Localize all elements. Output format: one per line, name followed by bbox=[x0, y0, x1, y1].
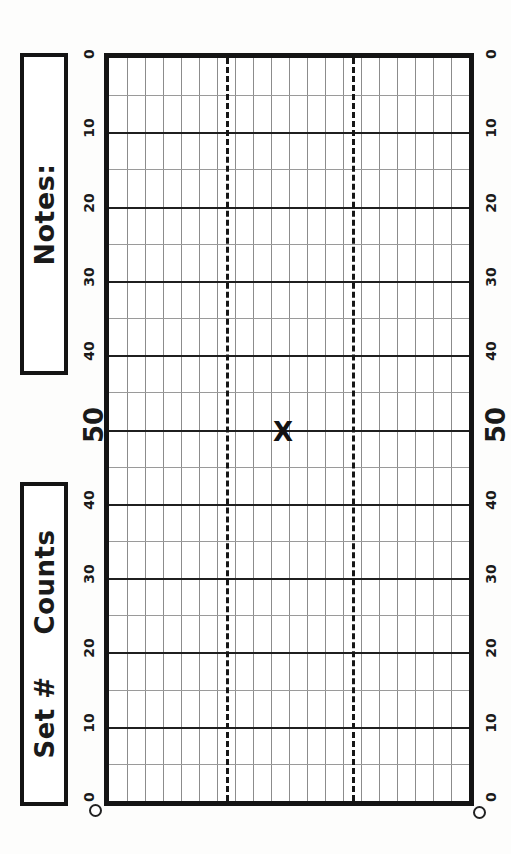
axis-tick-right-10: 0 bbox=[478, 790, 504, 804]
grid-hline bbox=[109, 392, 469, 393]
axis-tick-left-9: 10 bbox=[76, 716, 102, 730]
binder-hole-left bbox=[89, 804, 102, 817]
axis-tick-left-10: 0 bbox=[76, 790, 102, 804]
axis-tick-left-8: 20 bbox=[76, 641, 102, 655]
axis-tick-label: 30 bbox=[82, 267, 96, 286]
axis-tick-label: 0 bbox=[82, 792, 96, 802]
set-number-label: Set # bbox=[31, 676, 57, 758]
grid-hline bbox=[109, 95, 469, 96]
axis-tick-label: 10 bbox=[484, 713, 498, 732]
axis-tick-right-5: 50 bbox=[478, 412, 504, 438]
axis-tick-right-4: 40 bbox=[478, 344, 504, 358]
axis-tick-label: 0 bbox=[82, 49, 96, 59]
axis-tick-right-2: 20 bbox=[478, 196, 504, 210]
grid-hline bbox=[109, 764, 469, 765]
axis-left: 01020304050403020100 bbox=[76, 53, 102, 806]
grid-hline bbox=[109, 578, 469, 580]
axis-tick-label: 20 bbox=[484, 193, 498, 212]
grid-hline bbox=[109, 504, 469, 506]
axis-tick-label: 30 bbox=[484, 267, 498, 286]
grid-hline bbox=[109, 467, 469, 468]
data-mark-x[interactable]: X bbox=[273, 419, 293, 445]
axis-tick-label: 10 bbox=[484, 119, 498, 138]
grid-hline bbox=[109, 690, 469, 691]
axis-tick-label: 40 bbox=[484, 341, 498, 360]
grid-hline bbox=[109, 281, 469, 283]
axis-tick-left-1: 10 bbox=[76, 121, 102, 135]
axis-tick-left-2: 20 bbox=[76, 196, 102, 210]
axis-tick-right-0: 0 bbox=[478, 47, 504, 61]
axis-tick-label: 20 bbox=[82, 639, 96, 658]
grid-hline bbox=[109, 207, 469, 209]
axis-tick-label: 20 bbox=[82, 193, 96, 212]
axis-tick-right-1: 10 bbox=[478, 121, 504, 135]
tally-grid[interactable]: X bbox=[104, 53, 474, 806]
grid-hline bbox=[109, 132, 469, 134]
axis-tick-label: 0 bbox=[484, 49, 498, 59]
grid-hline bbox=[109, 244, 469, 245]
grid-hline bbox=[109, 541, 469, 542]
grid-hline bbox=[109, 615, 469, 616]
grid-hline bbox=[109, 727, 469, 729]
grid-hline bbox=[109, 318, 469, 319]
axis-tick-left-7: 30 bbox=[76, 567, 102, 581]
axis-tick-label: 30 bbox=[82, 564, 96, 583]
axis-right: 01020304050403020100 bbox=[478, 53, 504, 806]
grid-hline bbox=[109, 355, 469, 357]
axis-tick-label: 30 bbox=[484, 564, 498, 583]
axis-tick-label: 10 bbox=[82, 713, 96, 732]
set-counts-label-box[interactable]: Set # Counts bbox=[20, 482, 68, 806]
axis-tick-label: 40 bbox=[484, 490, 498, 509]
dashed-reference-line-2 bbox=[352, 58, 355, 801]
axis-tick-left-4: 40 bbox=[76, 344, 102, 358]
notes-label: Notes: bbox=[31, 163, 58, 265]
grid-hline bbox=[109, 169, 469, 170]
axis-tick-left-5: 50 bbox=[76, 412, 102, 438]
dashed-reference-line-1 bbox=[226, 58, 229, 801]
set-counts-label-group: Set # Counts bbox=[31, 530, 57, 759]
axis-tick-left-0: 0 bbox=[76, 47, 102, 61]
axis-tick-left-3: 30 bbox=[76, 270, 102, 284]
axis-tick-label: 0 bbox=[484, 792, 498, 802]
axis-tick-label: 40 bbox=[82, 490, 96, 509]
axis-tick-label: 40 bbox=[82, 341, 96, 360]
axis-tick-label: 10 bbox=[82, 119, 96, 138]
counts-label: Counts bbox=[31, 530, 57, 635]
axis-tick-right-3: 30 bbox=[478, 270, 504, 284]
axis-tick-label: 50 bbox=[483, 406, 509, 442]
notes-label-box[interactable]: Notes: bbox=[20, 53, 68, 375]
grid-hline bbox=[109, 652, 469, 654]
axis-tick-right-9: 10 bbox=[478, 716, 504, 730]
binder-hole-right bbox=[473, 806, 486, 819]
axis-tick-label: 20 bbox=[484, 639, 498, 658]
axis-tick-right-7: 30 bbox=[478, 567, 504, 581]
axis-tick-left-6: 40 bbox=[76, 493, 102, 507]
axis-tick-right-8: 20 bbox=[478, 641, 504, 655]
axis-tick-right-6: 40 bbox=[478, 493, 504, 507]
